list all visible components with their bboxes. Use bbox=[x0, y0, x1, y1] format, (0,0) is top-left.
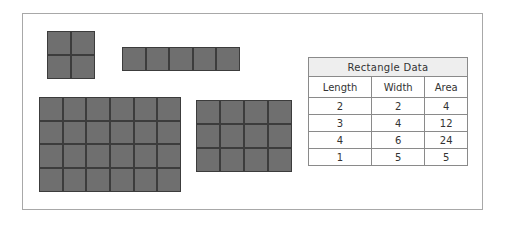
unit-square bbox=[268, 148, 292, 172]
unit-square bbox=[169, 47, 193, 71]
unit-square bbox=[196, 100, 220, 124]
shape-square-2x2 bbox=[47, 31, 95, 79]
unit-square bbox=[39, 144, 63, 168]
cell-length: 1 bbox=[309, 149, 372, 166]
unit-square bbox=[134, 144, 158, 168]
unit-square bbox=[86, 168, 110, 192]
cell-length: 4 bbox=[309, 132, 372, 149]
unit-square bbox=[63, 144, 87, 168]
unit-square bbox=[47, 55, 71, 79]
unit-square bbox=[134, 97, 158, 121]
unit-square bbox=[86, 144, 110, 168]
unit-square bbox=[268, 124, 292, 148]
header-width: Width bbox=[372, 77, 425, 98]
unit-square bbox=[244, 100, 268, 124]
table-row: 2 2 4 bbox=[309, 98, 468, 115]
table-row: 1 5 5 bbox=[309, 149, 468, 166]
shape-grid-3x4 bbox=[196, 100, 292, 172]
unit-square bbox=[71, 31, 95, 55]
table-title-row: Rectangle Data bbox=[309, 58, 468, 77]
shape-grid-4x6 bbox=[39, 97, 181, 192]
unit-square bbox=[193, 47, 217, 71]
unit-square bbox=[110, 168, 134, 192]
unit-square bbox=[63, 97, 87, 121]
unit-square bbox=[110, 97, 134, 121]
unit-square bbox=[63, 121, 87, 145]
shape-strip-1x5 bbox=[122, 47, 240, 71]
unit-square bbox=[122, 47, 146, 71]
unit-square bbox=[157, 121, 181, 145]
unit-square bbox=[196, 124, 220, 148]
unit-square bbox=[196, 148, 220, 172]
unit-square bbox=[268, 100, 292, 124]
unit-square bbox=[244, 148, 268, 172]
unit-square bbox=[86, 121, 110, 145]
unit-square bbox=[134, 121, 158, 145]
unit-square bbox=[39, 168, 63, 192]
unit-square bbox=[47, 31, 71, 55]
unit-square bbox=[39, 97, 63, 121]
unit-square bbox=[39, 121, 63, 145]
rectangle-data-table: Rectangle Data Length Width Area 2 2 4 3… bbox=[308, 57, 468, 166]
cell-area: 5 bbox=[425, 149, 468, 166]
cell-length: 3 bbox=[309, 115, 372, 132]
unit-square bbox=[71, 55, 95, 79]
unit-square bbox=[220, 124, 244, 148]
unit-square bbox=[220, 100, 244, 124]
cell-width: 4 bbox=[372, 115, 425, 132]
cell-area: 4 bbox=[425, 98, 468, 115]
cell-length: 2 bbox=[309, 98, 372, 115]
unit-square bbox=[157, 168, 181, 192]
table-row: 4 6 24 bbox=[309, 132, 468, 149]
unit-square bbox=[146, 47, 170, 71]
unit-square bbox=[86, 97, 110, 121]
unit-square bbox=[216, 47, 240, 71]
table-title: Rectangle Data bbox=[309, 58, 468, 77]
unit-square bbox=[157, 97, 181, 121]
unit-square bbox=[134, 168, 158, 192]
unit-square bbox=[244, 124, 268, 148]
table-row: 3 4 12 bbox=[309, 115, 468, 132]
unit-square bbox=[220, 148, 244, 172]
cell-width: 6 bbox=[372, 132, 425, 149]
header-area: Area bbox=[425, 77, 468, 98]
cell-width: 5 bbox=[372, 149, 425, 166]
unit-square bbox=[110, 144, 134, 168]
cell-area: 12 bbox=[425, 115, 468, 132]
unit-square bbox=[157, 144, 181, 168]
header-length: Length bbox=[309, 77, 372, 98]
unit-square bbox=[110, 121, 134, 145]
cell-width: 2 bbox=[372, 98, 425, 115]
unit-square bbox=[63, 168, 87, 192]
cell-area: 24 bbox=[425, 132, 468, 149]
table-header-row: Length Width Area bbox=[309, 77, 468, 98]
